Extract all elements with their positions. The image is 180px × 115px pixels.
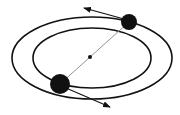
center-of-mass-dot [88,55,92,59]
inner-orbit [33,28,151,88]
connecting-line [60,22,129,84]
binary-orbit-diagram [0,0,180,115]
small-body [121,14,137,30]
outer-orbit [12,17,172,99]
large-body [50,74,70,94]
